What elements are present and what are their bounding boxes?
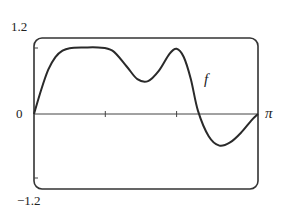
chart [0,0,293,212]
curve-label-f: f [204,71,208,88]
x-label-pi: π [265,105,273,122]
y-label-bottom: −1.2 [17,193,41,209]
y-label-top: 1.2 [11,19,27,35]
function-curve-f [34,47,258,146]
y-label-zero: 0 [16,106,23,122]
